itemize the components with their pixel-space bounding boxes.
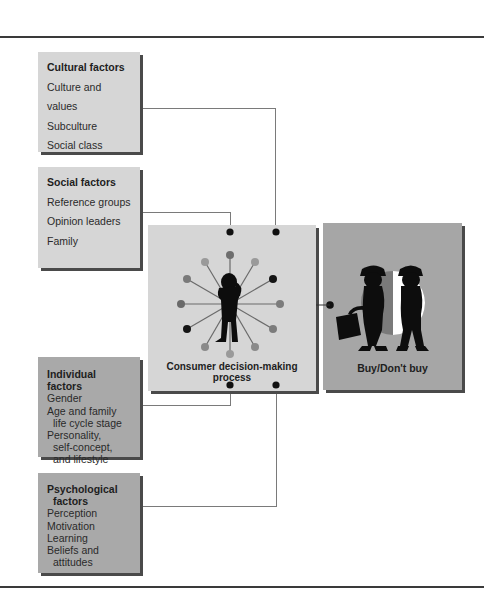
shopper-silhouette-icon [336, 266, 388, 352]
person-silhouette-icon [215, 273, 241, 342]
outcome-label: Buy/Don't buy [323, 362, 462, 374]
decision-process-label: Consumer decision-making process [148, 361, 316, 383]
node-social [226, 228, 233, 235]
node-cultural [272, 228, 279, 235]
buy-decision-graphic [336, 266, 429, 352]
diagram-graphics [0, 0, 492, 611]
